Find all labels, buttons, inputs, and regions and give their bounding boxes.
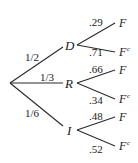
prob-root-R: 1/3 [40,71,55,83]
prob-I-Fc: .52 [89,143,103,155]
prob-root-I: 1/6 [25,107,40,119]
prob-R-Fc: .34 [89,94,103,106]
probability-tree-diagram: 1/2 1/3 1/6 D R I .29 .71 F F c .66 .34 … [0,0,138,163]
leaf-I-F: F [118,110,127,124]
leaf-R-F: F [118,63,127,77]
leaf-I-Fc: F [118,139,127,153]
prob-I-F: .48 [89,110,103,122]
sup-I-Fc: c [127,139,131,147]
node-R: R [64,76,73,91]
sup-R-Fc: c [127,92,131,100]
leaf-D-F: F [118,16,127,30]
leaf-R-Fc: F [118,92,127,106]
prob-D-Fc: .71 [89,46,103,58]
edge-root-I [10,83,63,126]
leaf-D-Fc: F [118,45,127,59]
node-I: I [66,123,72,138]
prob-root-D: 1/2 [25,51,39,63]
prob-D-F: .29 [89,16,103,28]
prob-R-F: .66 [89,63,103,75]
sup-D-Fc: c [127,45,131,53]
node-D: D [64,38,75,53]
